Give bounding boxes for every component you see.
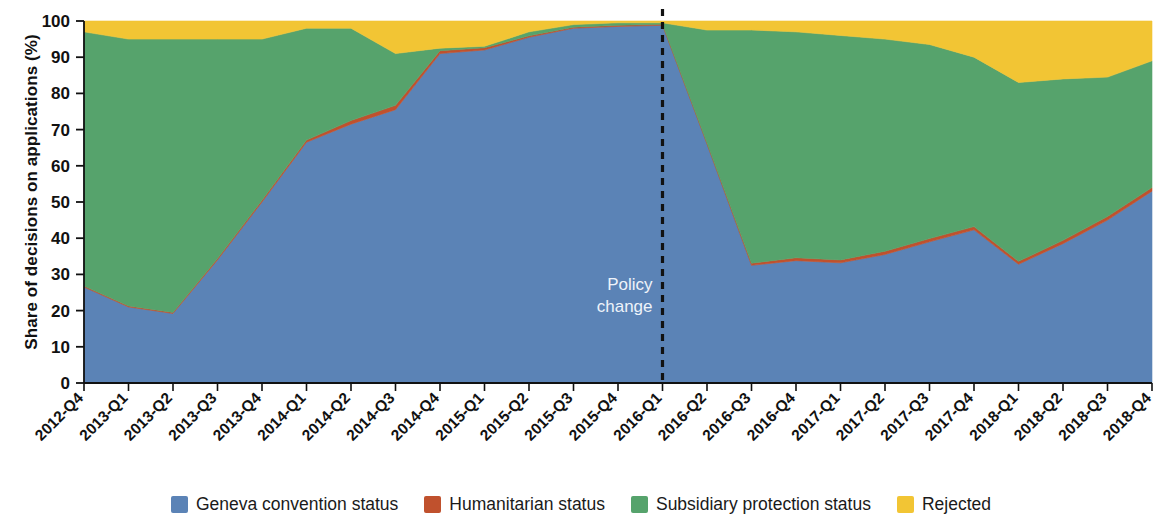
x-tick-label: 2015-Q2 [476, 389, 531, 444]
x-tick-label: 2016-Q2 [654, 389, 709, 444]
legend-label: Humanitarian status [449, 494, 605, 515]
x-tick-label: 2017-Q4 [921, 389, 976, 444]
x-tick-label: 2013-Q2 [120, 389, 175, 444]
x-tick-label: 2014-Q4 [387, 389, 442, 444]
y-tick-label: 40 [51, 229, 70, 248]
y-tick-label: 60 [51, 157, 70, 176]
y-tick-label: 90 [51, 48, 70, 67]
policy-change-label-line2: change [597, 297, 653, 316]
x-tick-label: 2017-Q3 [877, 389, 932, 444]
area-series-group [84, 21, 1152, 383]
x-tick-label: 2018-Q2 [1010, 389, 1065, 444]
policy-change-label-line1: Policy [607, 275, 653, 294]
x-tick-label: 2016-Q1 [610, 389, 665, 444]
y-tick-label: 100 [42, 12, 70, 31]
legend-item-0[interactable]: Geneva convention status [171, 494, 398, 515]
legend-item-2[interactable]: Subsidiary protection status [631, 494, 871, 515]
y-tick-label: 80 [51, 84, 70, 103]
x-tick-label: 2013-Q1 [76, 389, 131, 444]
x-tick-label: 2014-Q3 [343, 389, 398, 444]
y-tick-label: 30 [51, 265, 70, 284]
legend-swatch-icon [897, 496, 914, 513]
x-tick-label: 2018-Q4 [1099, 389, 1154, 444]
y-tick-label: 50 [51, 193, 70, 212]
y-tick-label: 20 [51, 302, 70, 321]
y-tick-label: 0 [61, 374, 70, 393]
x-tick-label: 2014-Q2 [298, 389, 353, 444]
legend-item-3[interactable]: Rejected [897, 494, 991, 515]
y-tick-label: 70 [51, 121, 70, 140]
legend-label: Rejected [922, 494, 991, 515]
legend-swatch-icon [424, 496, 441, 513]
y-axis-title: Share of decisions on applications (%) [22, 0, 42, 392]
x-tick-label: 2018-Q1 [966, 389, 1021, 444]
x-tick-label: 2017-Q1 [788, 389, 843, 444]
x-tick-label: 2012-Q4 [31, 389, 86, 444]
chart-legend: Geneva convention statusHumanitarian sta… [0, 486, 1162, 522]
legend-swatch-icon [631, 496, 648, 513]
x-tick-label: 2013-Q3 [165, 389, 220, 444]
legend-label: Geneva convention status [196, 494, 398, 515]
x-tick-label: 2016-Q3 [699, 389, 754, 444]
x-tick-label: 2015-Q4 [565, 389, 620, 444]
x-tick-label: 2015-Q3 [521, 389, 576, 444]
legend-label: Subsidiary protection status [656, 494, 871, 515]
x-tick-label: 2018-Q3 [1055, 389, 1110, 444]
legend-swatch-icon [171, 496, 188, 513]
x-tick-label: 2014-Q1 [254, 389, 309, 444]
x-tick-label: 2013-Q4 [209, 389, 264, 444]
x-tick-label: 2015-Q1 [432, 389, 487, 444]
x-tick-label: 2017-Q2 [832, 389, 887, 444]
legend-item-1[interactable]: Humanitarian status [424, 494, 605, 515]
x-tick-label: 2016-Q4 [743, 389, 798, 444]
y-tick-group: 0102030405060708090100 [42, 12, 84, 393]
y-tick-label: 10 [51, 338, 70, 357]
stacked-area-chart: Share of decisions on applications (%) 0… [0, 0, 1162, 522]
plot-area: 0102030405060708090100 2012-Q42013-Q1201… [0, 0, 1162, 486]
x-tick-group: 2012-Q42013-Q12013-Q22013-Q32013-Q42014-… [31, 383, 1154, 444]
